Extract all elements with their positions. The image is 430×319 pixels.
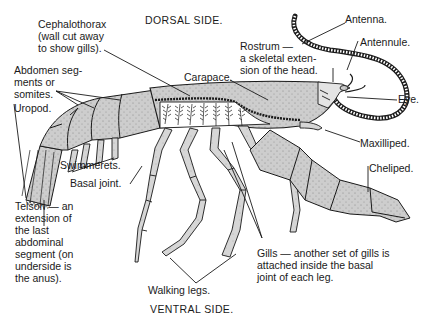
eye-label: Eye. (398, 93, 419, 105)
gills-label: Gills — another set of gills is attached… (257, 247, 389, 283)
cheliped-label: Cheliped. (369, 162, 413, 174)
rostrum-label: Rostrum — a skeletal exten- sion of the … (240, 40, 318, 76)
ventral-side-label: VENTRAL SIDE. (150, 303, 234, 315)
carapace-label: Carapace. (184, 71, 232, 83)
telson-label: Telson — an extension of the last abdomi… (15, 200, 73, 284)
crayfish-diagram: DORSAL SIDE. VENTRAL SIDE. Cephalothorax… (0, 0, 430, 319)
maxilliped-label: Maxilliped. (360, 137, 410, 149)
swimmerets-label: Swimmerets. (60, 159, 121, 171)
basal-joint-label: Basal joint. (70, 177, 121, 189)
dorsal-side-label: DORSAL SIDE. (145, 14, 223, 26)
uropod-label: Uropod. (14, 102, 51, 114)
antennule-label: Antennule. (360, 36, 410, 48)
abdomen-label: Abdomen seg- ments or somites. (14, 64, 82, 100)
antenna-label: Antenna. (345, 13, 387, 25)
walking-legs-label: Walking legs. (148, 284, 210, 296)
cephalothorax-label: Cephalothorax (wall cut away to show gil… (38, 18, 106, 54)
